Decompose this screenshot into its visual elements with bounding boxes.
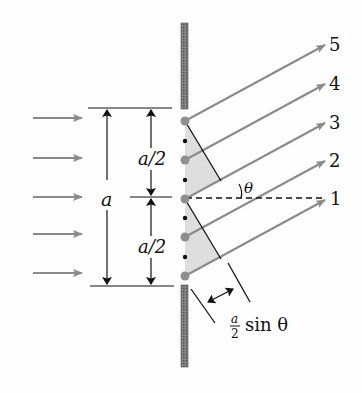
ray-5 bbox=[185, 45, 325, 121]
path-diff-numerator: a bbox=[231, 312, 238, 326]
ray-2-label: 2 bbox=[329, 150, 340, 171]
ray-3-label: 3 bbox=[329, 112, 340, 133]
theta-label: θ bbox=[244, 179, 253, 197]
upper-wall bbox=[181, 23, 188, 109]
path-diff-denominator: 2 bbox=[231, 327, 239, 341]
large-source-dot bbox=[181, 233, 190, 242]
incident-arrows bbox=[33, 118, 82, 273]
small-source-dot bbox=[183, 178, 187, 182]
large-source-dot bbox=[181, 195, 190, 204]
small-source-dot bbox=[183, 255, 187, 259]
lower-half-label: a/2 bbox=[138, 236, 166, 257]
upper-shaded-triangle bbox=[185, 121, 220, 199]
lower-wall bbox=[181, 285, 188, 367]
diagram-svg: a a/2 a/2 θ a 2 sin θ 5 4 3 2 1 bbox=[0, 0, 362, 393]
diffraction-diagram: a a/2 a/2 θ a 2 sin θ 5 4 3 2 1 bbox=[0, 0, 362, 393]
large-source-dot bbox=[181, 272, 190, 281]
ray-1-label: 1 bbox=[330, 188, 341, 209]
small-source-dot bbox=[183, 139, 187, 143]
large-source-dot bbox=[181, 156, 190, 165]
ray-5-label: 5 bbox=[329, 34, 340, 55]
large-source-dot bbox=[181, 117, 190, 126]
theta-arc bbox=[239, 184, 242, 198]
upper-half-label: a/2 bbox=[138, 148, 166, 169]
path-diff-tick-left bbox=[191, 289, 215, 323]
small-source-dot bbox=[183, 216, 187, 220]
path-diff-arrow bbox=[208, 289, 233, 302]
path-diff-tick-right bbox=[228, 263, 250, 302]
ray-4 bbox=[185, 84, 325, 160]
lower-shaded-triangle bbox=[185, 199, 220, 276]
path-diff-sin-theta: sin θ bbox=[245, 314, 288, 335]
slit-width-label: a bbox=[101, 188, 112, 210]
ray-4-label: 4 bbox=[329, 73, 340, 94]
